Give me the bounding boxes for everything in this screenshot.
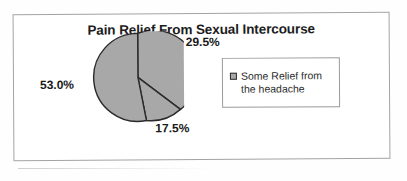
pie-svg bbox=[92, 31, 185, 124]
plot-area: Pain Relief From Sexual Intercourse 29.5… bbox=[14, 13, 390, 160]
legend-item[interactable]: Some Relief from the headache bbox=[223, 58, 339, 96]
legend-swatch-icon bbox=[230, 73, 237, 80]
chart-legend: Some Relief from the headache bbox=[222, 57, 340, 108]
chart-frame: Pain Relief From Sexual Intercourse 29.5… bbox=[13, 12, 391, 161]
pie-label-53-0: 53.0% bbox=[40, 78, 74, 92]
pie-label-17-5: 17.5% bbox=[155, 121, 189, 135]
legend-item-label: Some Relief from the headache bbox=[241, 69, 333, 96]
pie-label-29-5: 29.5% bbox=[186, 35, 220, 49]
pie-chart bbox=[92, 31, 185, 124]
scan-artifact-line bbox=[18, 168, 218, 169]
